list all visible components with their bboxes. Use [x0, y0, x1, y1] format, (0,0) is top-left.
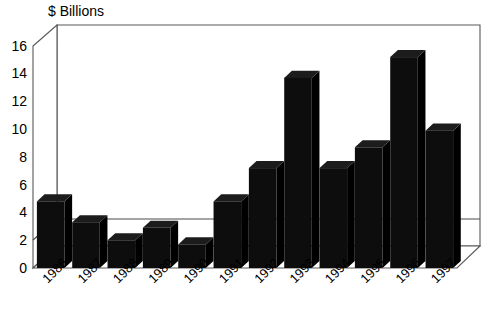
y-axis: 16 14 12 10 8 6 4 2 0	[11, 38, 27, 276]
bar-side-face	[64, 194, 72, 268]
bar-front-face	[249, 168, 277, 268]
bar-side-face	[241, 194, 249, 268]
bar-side-face	[312, 71, 320, 268]
bar-front-face	[284, 78, 312, 268]
y-tick-label: 8	[19, 149, 27, 165]
bar-1994	[320, 161, 355, 268]
bar-1996	[390, 50, 425, 268]
bar-side-face	[453, 124, 461, 268]
bar-1993	[284, 71, 319, 268]
y-tick-label: 4	[19, 204, 27, 220]
bar-side-face	[276, 161, 284, 268]
y-tick-label: 12	[11, 93, 27, 109]
y-tick-label: 6	[19, 177, 27, 193]
bar-side-face	[347, 161, 355, 268]
bar-front-face	[320, 168, 348, 268]
bar-1997	[426, 124, 461, 268]
bar-side-face	[418, 50, 426, 268]
chart-canvas: 16 14 12 10 8 6 4 2 0 $ Billions 1986198…	[0, 0, 495, 312]
bar-side-face	[382, 140, 390, 268]
bar-1991	[214, 194, 249, 268]
bar-side-face	[170, 221, 178, 268]
y-tick-label: 10	[11, 121, 27, 137]
bar-side-face	[100, 215, 108, 268]
bar-chart: 16 14 12 10 8 6 4 2 0 $ Billions 1986198…	[0, 0, 495, 312]
bar-1995	[355, 140, 390, 268]
bar-front-face	[390, 57, 418, 268]
bar-front-face	[355, 147, 383, 268]
bar-1992	[249, 161, 284, 268]
bar-front-face	[426, 131, 454, 268]
y-tick-label: 16	[11, 38, 27, 54]
y-tick-label: 2	[19, 232, 27, 248]
y-tick-label: 0	[19, 260, 27, 276]
bar-1986	[37, 194, 72, 268]
chart-title: $ Billions	[48, 3, 104, 19]
y-tick-label: 14	[11, 65, 27, 81]
